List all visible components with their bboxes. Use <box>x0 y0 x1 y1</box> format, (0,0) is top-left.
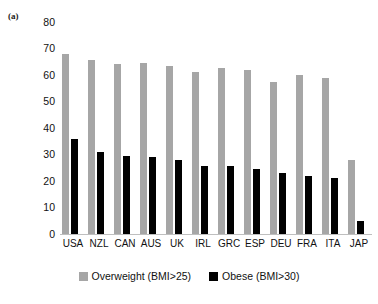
x-axis-tick-label: IRL <box>190 238 216 250</box>
bar-group <box>216 22 242 234</box>
bar-overweight <box>114 64 121 234</box>
legend-label: Overweight (BMI>25) <box>92 271 192 282</box>
bar-obese <box>175 160 182 234</box>
bar-obese <box>149 157 156 234</box>
bar-group <box>190 22 216 234</box>
x-axis-tick-label: USA <box>60 238 86 250</box>
bar-obese <box>71 139 78 234</box>
x-axis-tick-label: UK <box>164 238 190 250</box>
x-axis-tick-label: AUS <box>138 238 164 250</box>
bar-overweight <box>296 75 303 234</box>
legend-swatch-overweight <box>79 272 88 281</box>
x-axis-tick-label: ESP <box>242 238 268 250</box>
bar-obese <box>123 156 130 234</box>
bar-group <box>112 22 138 234</box>
bar-overweight <box>218 68 225 234</box>
x-axis-tick-label: GRC <box>216 238 242 250</box>
bar-obese <box>227 166 234 234</box>
bar-group <box>164 22 190 234</box>
bar-group <box>242 22 268 234</box>
y-axis-tick-label: 60 <box>9 70 55 81</box>
legend-item: Overweight (BMI>25) <box>79 271 192 282</box>
legend-item: Obese (BMI>30) <box>209 271 299 282</box>
bar-obese <box>97 152 104 234</box>
y-axis-tick-label: 50 <box>9 96 55 107</box>
x-axis-tick-label: NZL <box>86 238 112 250</box>
y-axis: 01020304050607080 <box>0 0 55 304</box>
y-axis-tick-label: 80 <box>9 17 55 28</box>
bar-group <box>268 22 294 234</box>
bar-group <box>86 22 112 234</box>
x-axis-tick-label: ITA <box>320 238 346 250</box>
bar-group <box>320 22 346 234</box>
bar-obese <box>305 176 312 234</box>
legend-swatch-obese <box>209 272 218 281</box>
bar-overweight <box>192 72 199 234</box>
bar-group <box>346 22 372 234</box>
bar-chart-figure: (a) 01020304050607080 USANZLCANAUSUKIRLG… <box>0 0 378 304</box>
x-axis-tick-label: CAN <box>112 238 138 250</box>
x-axis-baseline <box>60 234 372 235</box>
bar-overweight <box>88 60 95 234</box>
bar-obese <box>201 166 208 234</box>
bar-overweight <box>244 70 251 234</box>
bar-overweight <box>62 54 69 234</box>
bar-obese <box>253 169 260 234</box>
legend-label: Obese (BMI>30) <box>222 271 299 282</box>
y-axis-tick-label: 20 <box>9 176 55 187</box>
y-axis-tick-label: 0 <box>9 229 55 240</box>
bar-obese <box>279 173 286 234</box>
plot-area <box>60 22 372 234</box>
bar-group <box>294 22 320 234</box>
bar-obese <box>331 178 338 234</box>
x-axis-tick-label: JAP <box>346 238 372 250</box>
bar-overweight <box>270 82 277 234</box>
y-axis-tick-label: 70 <box>9 43 55 54</box>
bar-obese <box>357 221 364 234</box>
bar-overweight <box>348 160 355 234</box>
chart-legend: Overweight (BMI>25)Obese (BMI>30) <box>0 271 378 282</box>
bar-overweight <box>166 66 173 234</box>
y-axis-tick-label: 40 <box>9 123 55 134</box>
x-axis-tick-label: DEU <box>268 238 294 250</box>
y-axis-tick-label: 30 <box>9 149 55 160</box>
bar-overweight <box>140 63 147 234</box>
x-axis-tick-label: FRA <box>294 238 320 250</box>
bar-group <box>60 22 86 234</box>
bar-group <box>138 22 164 234</box>
bar-overweight <box>322 78 329 234</box>
x-axis: USANZLCANAUSUKIRLGRCESPDEUFRAITAJAP <box>60 236 372 252</box>
y-axis-tick-label: 10 <box>9 202 55 213</box>
